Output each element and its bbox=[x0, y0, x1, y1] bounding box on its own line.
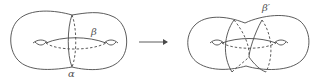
left-surface bbox=[11, 11, 127, 70]
alpha-label: α bbox=[68, 69, 75, 79]
right-curve-front bbox=[222, 39, 276, 44]
right-hole-2 bbox=[274, 40, 288, 45]
diagram-canvas bbox=[0, 0, 319, 84]
beta-prime-back-2 bbox=[262, 20, 271, 72]
alpha-curve-back bbox=[72, 15, 76, 67]
arrow-icon bbox=[139, 39, 168, 45]
right-surface-outline bbox=[188, 15, 309, 69]
beta-label: β bbox=[91, 27, 97, 37]
right-surface bbox=[188, 15, 309, 72]
right-hole-1 bbox=[210, 40, 224, 45]
left-hole-2 bbox=[104, 40, 118, 45]
beta-prime-back-3 bbox=[232, 57, 249, 72]
beta-prime-label: β′ bbox=[262, 3, 270, 13]
alpha-curve-front bbox=[68, 15, 72, 67]
beta-prime-front-1 bbox=[225, 20, 234, 72]
left-hole-1 bbox=[33, 40, 48, 45]
right-curve-back bbox=[222, 43, 276, 48]
